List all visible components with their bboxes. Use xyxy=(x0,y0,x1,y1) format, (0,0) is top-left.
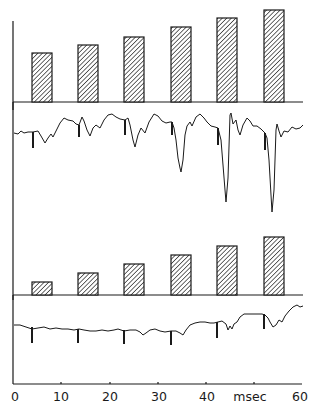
upper-trace xyxy=(14,113,303,212)
upper-bar-6 xyxy=(264,10,284,102)
upper-trace-panel xyxy=(13,102,303,220)
upper-bar-panel xyxy=(13,10,303,110)
lower-bar-3 xyxy=(124,264,144,295)
x-axis-unit-label: msec xyxy=(233,389,266,404)
figure: 0 10 20 30 40 msec 60 xyxy=(0,0,313,410)
lower-bar-5 xyxy=(217,246,237,295)
lower-bar-2 xyxy=(78,273,98,295)
x-tick-label-60: 60 xyxy=(292,389,308,404)
x-tick-label-0: 0 xyxy=(11,389,19,404)
upper-bar-3 xyxy=(124,37,144,102)
x-tick-label-30: 30 xyxy=(151,389,167,404)
lower-bar-panel xyxy=(13,220,303,300)
lower-bar-6 xyxy=(264,237,284,295)
lower-bar-4 xyxy=(171,255,191,295)
lower-bar-1 xyxy=(32,282,52,295)
upper-bar-1 xyxy=(32,53,52,102)
upper-bar-2 xyxy=(78,45,98,102)
time-axis: 0 10 20 30 40 msec 60 xyxy=(11,382,308,404)
x-tick-label-40: 40 xyxy=(199,389,215,404)
upper-bar-5 xyxy=(217,18,237,102)
upper-bar-4 xyxy=(171,27,191,102)
lower-trace xyxy=(14,305,303,335)
lower-trace-panel xyxy=(13,295,303,384)
x-tick-label-20: 20 xyxy=(102,389,118,404)
x-tick-label-10: 10 xyxy=(53,389,69,404)
